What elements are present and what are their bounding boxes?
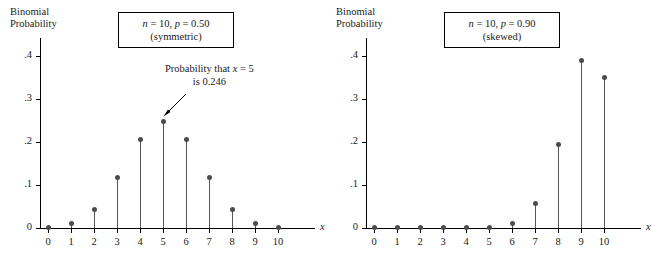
y-tick-label-3-right: .3 <box>338 92 358 103</box>
x-tick-label-9-right: 9 <box>573 236 589 247</box>
y-tick-3-right <box>362 99 367 100</box>
caption-line2-right: (skewed) <box>453 30 551 43</box>
x-tick-label-0-right: 0 <box>366 236 382 247</box>
data-point-7-right <box>533 201 538 206</box>
data-point-2-right <box>418 225 423 230</box>
y-tick-label-0-right: 0 <box>338 221 358 232</box>
x-tick-label-1-right: 1 <box>389 236 405 247</box>
x-tick-label-2-right: 2 <box>412 236 428 247</box>
x-tick-8-right <box>558 229 559 233</box>
x-tick-7-right <box>535 229 536 233</box>
caption-line1-right: n = 10, p = 0.90 <box>453 17 551 30</box>
caption-box-right: n = 10, p = 0.90 (skewed) <box>444 12 560 48</box>
annotation-arrow-left <box>0 0 326 255</box>
x-axis-line-right <box>366 228 641 229</box>
data-point-0-right <box>372 225 377 230</box>
stem-7-right <box>535 203 536 228</box>
stem-10-right <box>604 77 605 228</box>
x-tick-10-right <box>604 229 605 233</box>
y-axis-line-right <box>366 38 367 228</box>
data-point-6-right <box>510 221 515 226</box>
y-tick-0-right <box>362 228 367 229</box>
y-tick-4-right <box>362 56 367 57</box>
figure-container: Binomial Probability 0 .1 .2 .3 .4 <box>0 0 652 255</box>
x-tick-label-3-right: 3 <box>435 236 451 247</box>
data-point-3-right <box>441 225 446 230</box>
y-tick-label-4-right: .4 <box>338 49 358 60</box>
chart-panel-right: Binomial Probability 0 .1 .2 .3 .4 <box>326 0 652 255</box>
y-tick-2-right <box>362 142 367 143</box>
data-point-8-right <box>556 142 561 147</box>
stem-9-right <box>581 61 582 228</box>
x-axis-name-right: x <box>646 221 651 232</box>
data-point-1-right <box>395 225 400 230</box>
y-tick-label-2-right: .2 <box>338 135 358 146</box>
y-tick-1-right <box>362 185 367 186</box>
y-tick-label-1-right: .1 <box>338 178 358 189</box>
x-tick-6-right <box>512 229 513 233</box>
x-tick-label-5-right: 5 <box>481 236 497 247</box>
chart-panel-left: Binomial Probability 0 .1 .2 .3 .4 <box>0 0 326 255</box>
caption-mid-right: = 10, <box>474 18 501 29</box>
x-tick-label-10-right: 10 <box>596 236 612 247</box>
x-tick-label-7-right: 7 <box>527 236 543 247</box>
data-point-9-right <box>579 58 584 63</box>
x-tick-9-right <box>581 229 582 233</box>
x-tick-label-8-right: 8 <box>550 236 566 247</box>
data-point-4-right <box>464 225 469 230</box>
data-point-10-right <box>602 75 607 80</box>
data-point-5-right <box>487 225 492 230</box>
stem-8-right <box>558 144 559 228</box>
x-tick-label-4-right: 4 <box>458 236 474 247</box>
x-tick-label-6-right: 6 <box>504 236 520 247</box>
caption-post-right: = 0.90 <box>506 18 536 29</box>
